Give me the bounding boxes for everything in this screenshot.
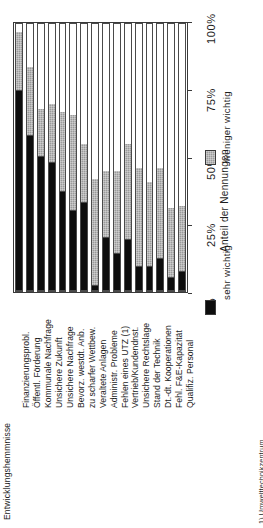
- category-label: Kommunale Nachfrage: [44, 319, 53, 408]
- axis-tick-mark: [188, 22, 192, 23]
- bar-segment-weniger-wichtig: [70, 115, 76, 211]
- bar-segment-remainder: [125, 24, 131, 144]
- legend-label: sehr wichtig: [222, 245, 232, 300]
- bar-column: [166, 23, 177, 292]
- stacked-bar[interactable]: [178, 23, 186, 292]
- bar-segment-sehr-wichtig: [92, 286, 98, 291]
- category-label: Stand der Technik: [153, 339, 162, 409]
- bar-segment-remainder: [168, 24, 174, 208]
- stacked-bar[interactable]: [167, 23, 175, 292]
- category-label: Unsichere Rechtslage: [142, 323, 151, 408]
- bar-segment-weniger-wichtig: [81, 144, 87, 203]
- bar-column: [90, 23, 101, 292]
- category-label: zu scharfer Wettbew.: [88, 327, 97, 408]
- figure-title: Entwicklungshemmnisse: [3, 423, 12, 520]
- bar-segment-remainder: [60, 24, 66, 112]
- bar-segment-remainder: [103, 24, 109, 171]
- bar-segment-sehr-wichtig: [38, 157, 44, 291]
- category-label: Fehlen eines UTZ (1): [121, 326, 130, 408]
- bar-segment-remainder: [136, 24, 142, 168]
- bar-segment-weniger-wichtig: [125, 144, 131, 240]
- bar-segment-weniger-wichtig: [114, 171, 120, 254]
- bar-column: [123, 23, 134, 292]
- stacked-bar[interactable]: [69, 23, 77, 292]
- bar-segment-remainder: [49, 24, 55, 104]
- category-label: Finanzierungsprobl.: [22, 332, 31, 408]
- stacked-bar[interactable]: [135, 23, 143, 292]
- bar-segment-weniger-wichtig: [16, 32, 22, 91]
- bar-column: [134, 23, 145, 292]
- axis-tick-mark: [188, 225, 192, 226]
- bar-segment-sehr-wichtig: [114, 254, 120, 291]
- footnote: 1) Umwelttechnikzentrum: [258, 439, 263, 524]
- bar-segment-remainder: [92, 24, 98, 179]
- bar-segment-weniger-wichtig: [147, 182, 153, 267]
- bar-segment-weniger-wichtig: [60, 112, 66, 192]
- stacked-bar[interactable]: [80, 23, 88, 292]
- stacked-bar[interactable]: [124, 23, 132, 292]
- stacked-bar[interactable]: [102, 23, 110, 292]
- plot-area: [13, 22, 188, 293]
- axis-tick-mark: [188, 158, 192, 159]
- bar-segment-remainder: [81, 24, 87, 144]
- bar-segment-sehr-wichtig: [125, 240, 131, 291]
- category-label: Dt.-dt. Kooperationen: [164, 325, 173, 408]
- bar-segment-sehr-wichtig: [103, 238, 109, 291]
- bar-segment-remainder: [179, 24, 185, 206]
- bar-segment-sehr-wichtig: [81, 203, 87, 291]
- bar-column: [79, 23, 90, 292]
- bar-column: [25, 23, 36, 292]
- category-label: Vertrieb/Kundendnst.: [131, 327, 140, 408]
- stacked-bar[interactable]: [37, 23, 45, 292]
- stacked-bar[interactable]: [48, 23, 56, 292]
- bar-segment-sehr-wichtig: [147, 267, 153, 291]
- legend-label: weniger wichtig: [222, 91, 232, 162]
- bar-column: [155, 23, 166, 292]
- stacked-bar[interactable]: [91, 23, 99, 292]
- stacked-bar[interactable]: [15, 23, 23, 292]
- category-label: Öffentl. Förderung: [33, 338, 42, 409]
- bar-segment-sehr-wichtig: [136, 267, 142, 291]
- stacked-bar[interactable]: [59, 23, 67, 292]
- bar-segment-sehr-wichtig: [168, 278, 174, 291]
- stacked-bar[interactable]: [113, 23, 121, 292]
- category-label: Unsichere Nachfrage: [66, 326, 75, 408]
- legend-swatch-sehr-wichtig: [205, 300, 216, 315]
- category-label: Fehl. F&E-Kapazität: [175, 330, 184, 408]
- bar-column: [112, 23, 123, 292]
- bar-segment-sehr-wichtig: [157, 259, 163, 291]
- bar-group: [14, 23, 187, 292]
- bar-segment-sehr-wichtig: [49, 163, 55, 291]
- category-label: Unsichere Zukunft: [55, 337, 64, 408]
- bar-segment-weniger-wichtig: [38, 109, 44, 157]
- bar-segment-weniger-wichtig: [168, 208, 174, 277]
- category-label: Qualifiz. Personal: [186, 340, 195, 408]
- bar-segment-remainder: [157, 24, 163, 168]
- bar-column: [47, 23, 58, 292]
- bar-segment-sehr-wichtig: [16, 91, 22, 291]
- bar-segment-weniger-wichtig: [27, 67, 33, 136]
- category-label: Administr. Probleme: [110, 330, 119, 408]
- stacked-bar[interactable]: [26, 23, 34, 292]
- bar-column: [68, 23, 79, 292]
- bar-column: [177, 23, 187, 292]
- bar-segment-sehr-wichtig: [27, 136, 33, 291]
- axis-title: Anteil der Nennungen: [220, 149, 230, 252]
- bar-segment-weniger-wichtig: [136, 168, 142, 267]
- stacked-bar[interactable]: [156, 23, 164, 292]
- bar-segment-remainder: [114, 24, 120, 171]
- legend-swatch-weniger-wichtig: [205, 150, 216, 165]
- bar-segment-weniger-wichtig: [103, 171, 109, 238]
- bar-segment-remainder: [38, 24, 44, 109]
- axis-tick-label: 25%: [206, 223, 217, 247]
- bar-segment-weniger-wichtig: [179, 206, 185, 273]
- bar-segment-remainder: [27, 24, 33, 67]
- axis-tick-mark: [188, 90, 192, 91]
- stacked-bar[interactable]: [146, 23, 154, 292]
- bar-segment-remainder: [16, 24, 22, 32]
- bar-column: [101, 23, 112, 292]
- bar-column: [14, 23, 25, 292]
- bar-column: [145, 23, 156, 292]
- bar-segment-remainder: [147, 24, 153, 182]
- bar-segment-remainder: [70, 24, 76, 115]
